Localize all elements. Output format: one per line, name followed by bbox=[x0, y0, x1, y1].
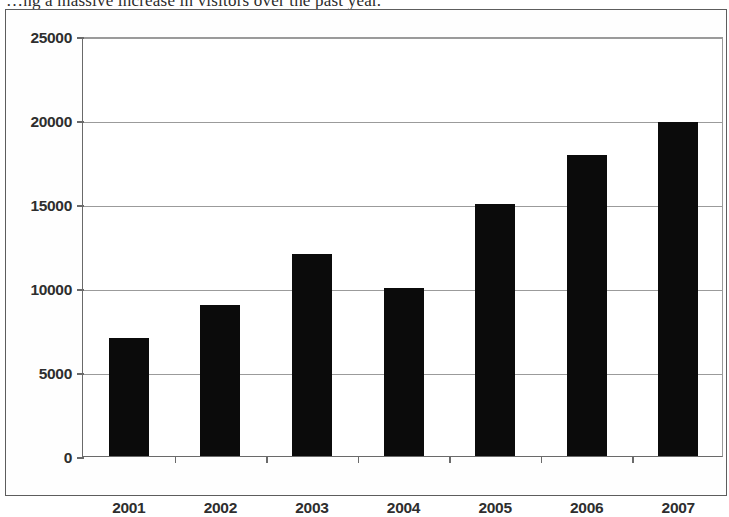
y-axis-tick-mark bbox=[77, 373, 84, 374]
x-axis-tick-mark bbox=[266, 456, 267, 463]
x-axis-tick-mark bbox=[632, 456, 633, 463]
y-axis-tick-label: 5000 bbox=[39, 365, 72, 383]
x-axis-tick-label-2003: 2003 bbox=[295, 499, 328, 517]
y-axis-tick-mark bbox=[77, 121, 84, 122]
x-axis-tick-label-2004: 2004 bbox=[387, 499, 420, 517]
y-axis-tick-mark bbox=[77, 205, 84, 206]
x-axis-tick-label-2001: 2001 bbox=[112, 499, 145, 517]
x-axis-tick-label-2002: 2002 bbox=[204, 499, 237, 517]
figure-container: 0500010000150002000025000200120022003200… bbox=[5, 9, 727, 496]
y-axis-tick-mark bbox=[77, 457, 84, 458]
x-axis-tick-mark bbox=[358, 456, 359, 463]
y-axis-tick-mark bbox=[77, 289, 84, 290]
bar-2002 bbox=[200, 305, 240, 456]
bar-2006 bbox=[567, 155, 607, 456]
x-axis-tick-label-2006: 2006 bbox=[570, 499, 603, 517]
gridline-y bbox=[83, 122, 722, 123]
x-axis-tick-mark bbox=[449, 456, 450, 463]
plot-area: 0500010000150002000025000200120022003200… bbox=[82, 37, 723, 457]
y-axis-tick-label: 10000 bbox=[30, 281, 72, 299]
bar-2001 bbox=[109, 338, 149, 456]
y-axis-tick-label: 0 bbox=[64, 449, 72, 467]
x-axis-tick-label-2007: 2007 bbox=[662, 499, 695, 517]
bar-chart: 0500010000150002000025000200120022003200… bbox=[6, 10, 728, 497]
y-axis-tick-mark bbox=[77, 37, 84, 38]
bar-2007 bbox=[658, 122, 698, 456]
x-axis-tick-mark bbox=[541, 456, 542, 463]
bar-2004 bbox=[384, 288, 424, 456]
bar-2005 bbox=[475, 204, 515, 456]
x-axis-tick-label-2005: 2005 bbox=[478, 499, 511, 517]
y-axis-tick-label: 25000 bbox=[30, 29, 72, 47]
y-axis-tick-label: 15000 bbox=[30, 197, 72, 215]
gridline-y bbox=[83, 38, 722, 39]
bar-2003 bbox=[292, 254, 332, 456]
gridline-y bbox=[83, 206, 722, 207]
y-axis-tick-label: 20000 bbox=[30, 113, 72, 131]
x-axis-tick-mark bbox=[175, 456, 176, 463]
